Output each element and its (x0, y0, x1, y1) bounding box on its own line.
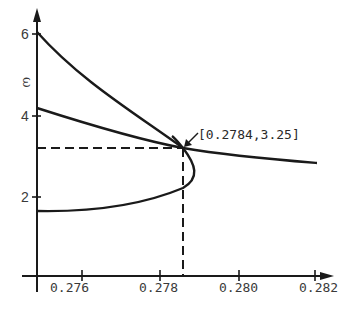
annotation-arrow-line (188, 133, 198, 143)
ytick-label-4: 4 (21, 108, 29, 124)
xtick-label-0280: 0.280 (219, 280, 258, 295)
ytick-label-2: 2 (21, 189, 29, 205)
xtick-label-0278: 0.278 (139, 280, 178, 295)
xtick-label-0282: 0.282 (299, 280, 338, 295)
bifurcation-chart: 6 4 2 ω 0.276 0.278 0.280 0.282 [0.2784,… (0, 0, 357, 310)
bifurcation-point-annotation: [0.2784,3.25] (198, 127, 300, 142)
y-axis-arrow-icon (33, 8, 41, 22)
x-axis-arrow-icon (320, 272, 334, 280)
xtick-label-0276: 0.276 (50, 280, 89, 295)
y-axis-label: ω (20, 77, 35, 88)
ytick-label-6: 6 (21, 26, 29, 42)
